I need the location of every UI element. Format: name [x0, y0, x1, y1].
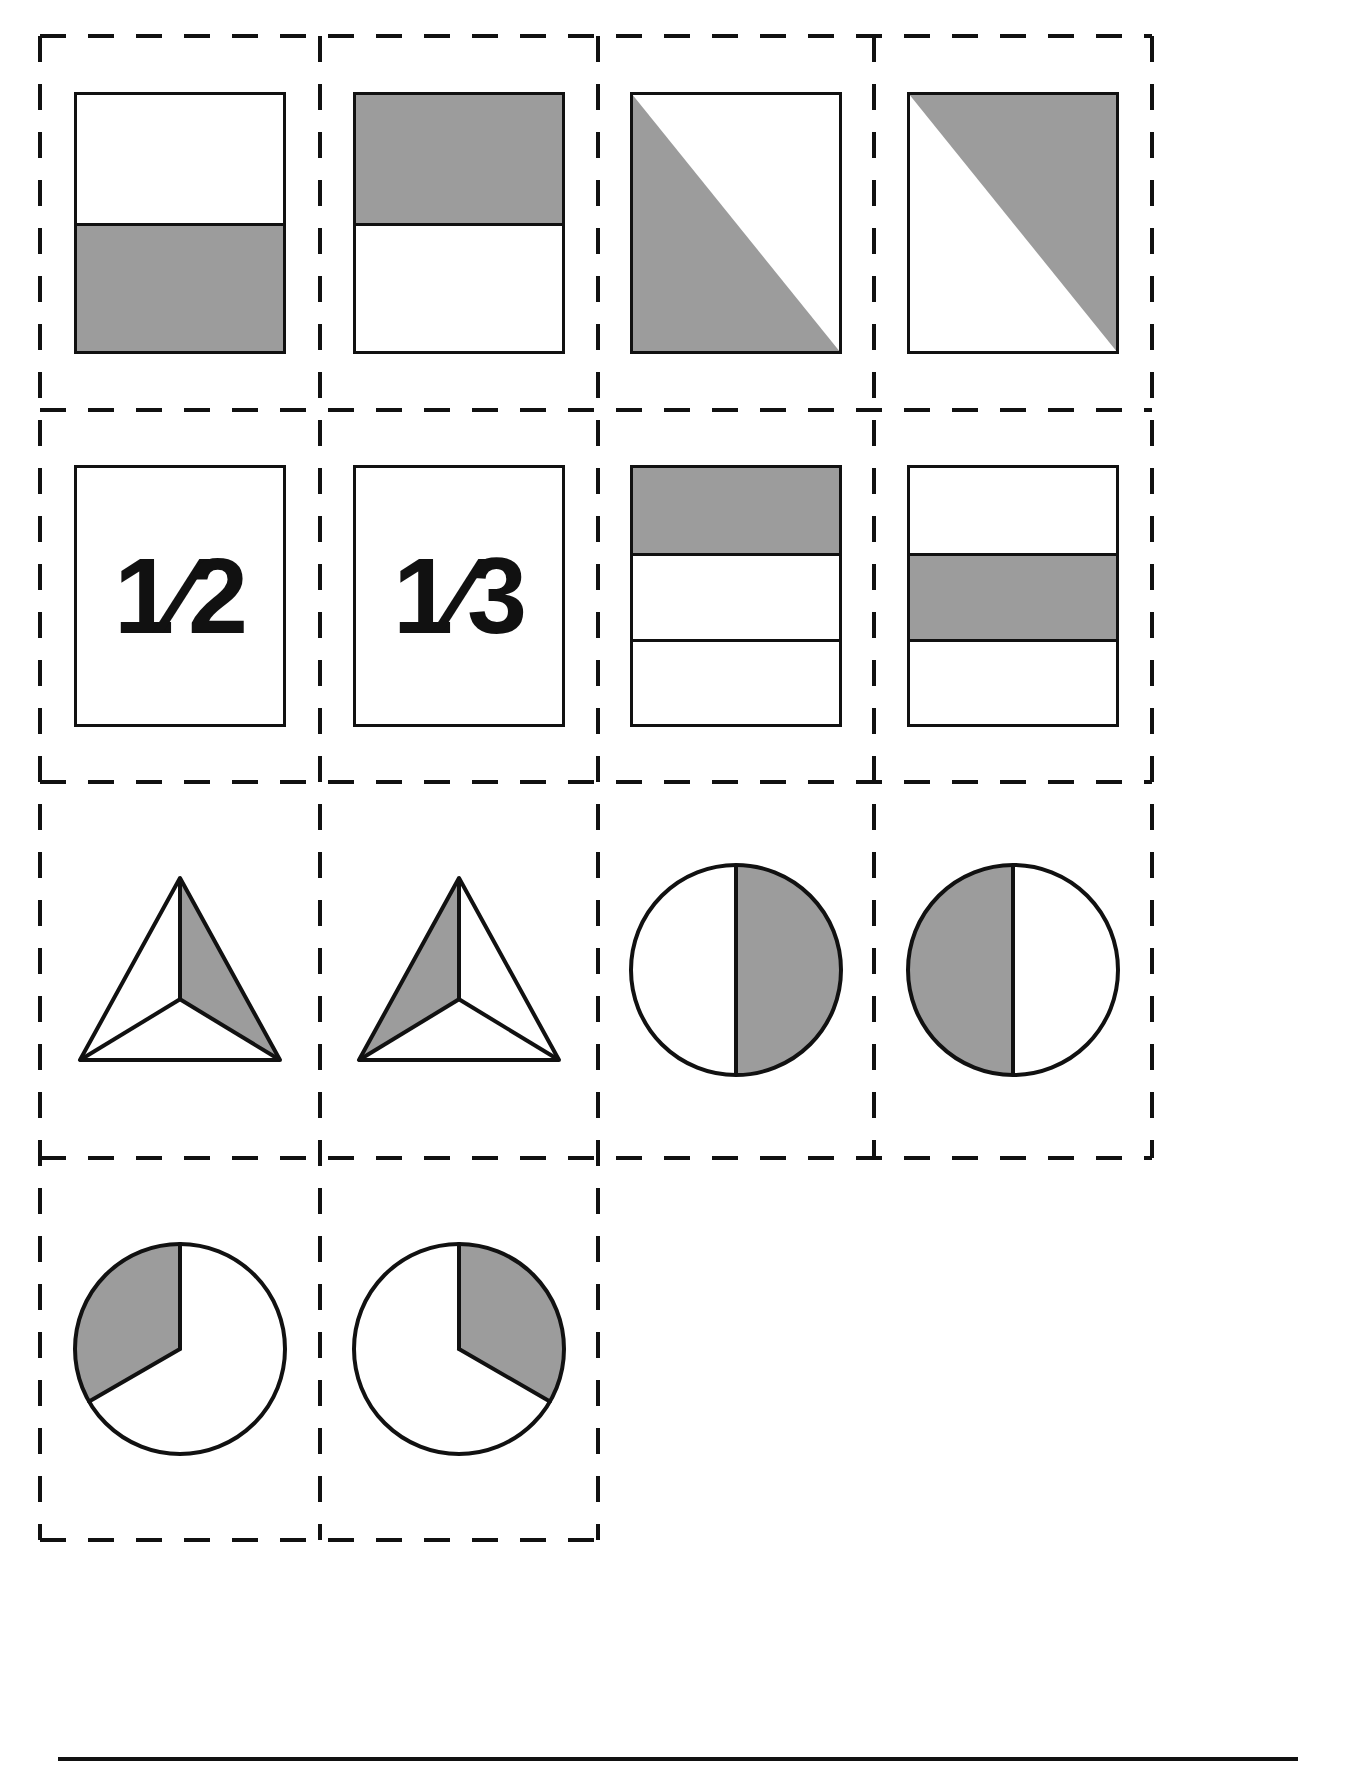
card-half-rect-top[interactable] — [320, 36, 598, 410]
card-half-square-upper-right[interactable] — [874, 36, 1152, 410]
band-unshaded — [633, 553, 839, 638]
fraction-label-one-third: 1⁄3 — [393, 542, 525, 650]
square-diagonal-figure — [907, 92, 1119, 354]
card-half-rect-bottom[interactable] — [40, 36, 320, 410]
circle-halves-figure — [628, 862, 844, 1078]
shaded-left-half — [908, 865, 1013, 1075]
triangle-thirds-figure — [70, 870, 290, 1070]
band-shaded — [633, 468, 839, 553]
card-thirds-rect-middle[interactable] — [874, 410, 1152, 782]
card-fraction-one-half[interactable]: 1⁄2 — [40, 410, 320, 782]
triangle-thirds-figure — [349, 870, 569, 1070]
square-diagonal-figure — [630, 92, 842, 354]
worksheet-page: 1⁄2 1⁄3 — [0, 0, 1350, 1774]
band-unshaded — [910, 639, 1116, 724]
fraction-box: 1⁄3 — [353, 465, 565, 727]
page-bottom-rule — [58, 1757, 1298, 1761]
circle-thirds-figure — [72, 1241, 288, 1457]
shaded-right-half — [736, 865, 841, 1075]
circle-thirds-figure — [351, 1241, 567, 1457]
band-shaded — [356, 95, 562, 223]
rect-figure-thirds — [630, 465, 842, 727]
band-unshaded — [910, 468, 1116, 553]
card-half-square-lower-left[interactable] — [598, 36, 874, 410]
card-grid: 1⁄2 1⁄3 — [0, 0, 1350, 1774]
rect-figure-thirds — [907, 465, 1119, 727]
card-third-circle-right-sector[interactable] — [320, 1158, 598, 1540]
card-thirds-triangle-left[interactable] — [320, 782, 598, 1158]
fraction-box: 1⁄2 — [74, 465, 286, 727]
circle-halves-figure — [905, 862, 1121, 1078]
rect-figure-halves — [74, 92, 286, 354]
card-third-circle-left-sector[interactable] — [40, 1158, 320, 1540]
rect-figure-halves — [353, 92, 565, 354]
card-fraction-one-third[interactable]: 1⁄3 — [320, 410, 598, 782]
card-half-circle-left[interactable] — [874, 782, 1152, 1158]
band-unshaded — [633, 639, 839, 724]
fraction-label-one-half: 1⁄2 — [114, 542, 246, 650]
card-thirds-rect-top[interactable] — [598, 410, 874, 782]
band-shaded — [77, 223, 283, 351]
card-half-circle-right[interactable] — [598, 782, 874, 1158]
card-thirds-triangle-right[interactable] — [40, 782, 320, 1158]
band-unshaded — [356, 223, 562, 351]
band-shaded — [910, 553, 1116, 638]
band-unshaded — [77, 95, 283, 223]
